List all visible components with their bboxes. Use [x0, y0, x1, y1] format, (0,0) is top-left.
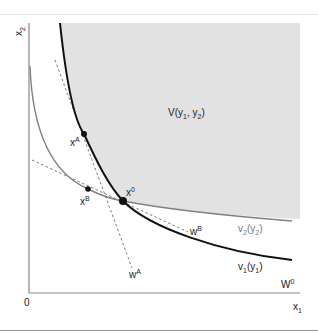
point-xA [81, 131, 87, 137]
bottom-divider [0, 330, 318, 331]
x-axis-label: x1 [293, 302, 302, 314]
region-label: V(y1, y2) [168, 108, 205, 120]
origin-label: 0 [24, 298, 30, 308]
point-xB [85, 186, 91, 192]
diagram-canvas [0, 0, 318, 334]
xB-label: xB [80, 195, 90, 207]
y-axis-label: x2 [14, 27, 26, 36]
v2-curve-label: v2(y2) [238, 224, 263, 236]
v1-curve-label: v1(y1) [238, 262, 263, 274]
wA-label: wA [129, 268, 141, 280]
x0-label: x0 [126, 186, 135, 198]
xA-label: xA [70, 136, 80, 148]
wB-label: wB [190, 225, 202, 237]
w0-label: W0 [281, 278, 294, 290]
